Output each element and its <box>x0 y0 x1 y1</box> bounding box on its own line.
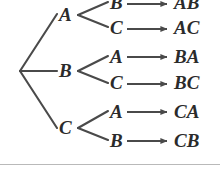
branch-root-to-C <box>20 71 57 128</box>
outcome-label-CB: CB <box>174 131 199 150</box>
node-level2-B-C: C <box>110 73 123 92</box>
outcome-label-BA: BA <box>174 47 199 66</box>
branch-C-to-A <box>78 111 108 128</box>
node-level1-C: C <box>59 118 72 137</box>
node-level2-B-A: A <box>110 47 123 66</box>
second-level-branches <box>78 2 108 140</box>
tree-diagram-figure: A B C B C A C A B AB AC BA BC CA CB <box>0 0 220 171</box>
branch-root-to-A <box>20 14 57 71</box>
bottom-divider-rule <box>0 164 220 165</box>
node-level2-C-A: A <box>110 102 123 121</box>
outcome-label-CA: CA <box>174 102 199 121</box>
branch-C-to-B <box>78 128 108 140</box>
branch-B-to-C <box>78 71 108 83</box>
outcome-label-AC: AC <box>174 18 199 37</box>
node-level1-B: B <box>59 61 72 80</box>
root-branches <box>20 14 57 128</box>
branch-B-to-A <box>78 56 108 71</box>
outcome-label-BC: BC <box>174 73 199 92</box>
node-level2-A-C: C <box>110 18 123 37</box>
outcome-label-AB: AB <box>174 0 199 12</box>
branch-A-to-B <box>78 2 108 15</box>
outcome-arrows <box>127 4 167 141</box>
node-level2-A-B: B <box>110 0 123 12</box>
node-level1-A: A <box>59 5 72 24</box>
branch-A-to-C <box>78 15 108 27</box>
node-level2-C-B: B <box>110 131 123 150</box>
